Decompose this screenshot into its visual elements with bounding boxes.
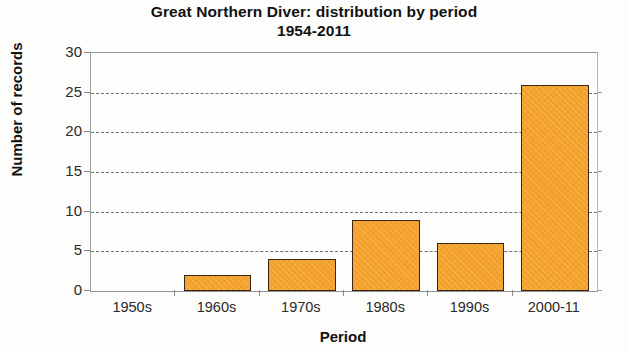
bar [437, 243, 504, 291]
x-axis-tick-label: 1960s [174, 299, 258, 316]
x-axis-tick-label: 2000-11 [512, 299, 596, 316]
y-axis-tick-label: 15 [38, 163, 82, 178]
bar [521, 85, 588, 291]
x-axis-tick-label: 1970s [259, 299, 343, 316]
x-axis-tick-label: 1950s [90, 299, 174, 316]
bar [352, 220, 419, 291]
x-axis-tick-label: 1990s [427, 299, 511, 316]
y-axis-tick-label: 10 [38, 203, 82, 218]
chart-title: Great Northern Diver: distribution by pe… [0, 2, 628, 40]
x-axis-tick-label: 1980s [343, 299, 427, 316]
y-axis-tick-label: 20 [38, 123, 82, 138]
bar [184, 275, 251, 291]
bar [268, 259, 335, 291]
y-axis-tick-label: 30 [38, 44, 82, 59]
y-axis-tick-label: 25 [38, 84, 82, 99]
y-axis-tick-label: 5 [38, 242, 82, 257]
bar-chart: Great Northern Diver: distribution by pe… [0, 0, 628, 352]
x-axis-title: Period [90, 328, 596, 345]
plot-area [90, 52, 598, 292]
y-axis-title: Number of records [8, 0, 25, 230]
y-axis-tick-label: 0 [38, 282, 82, 297]
